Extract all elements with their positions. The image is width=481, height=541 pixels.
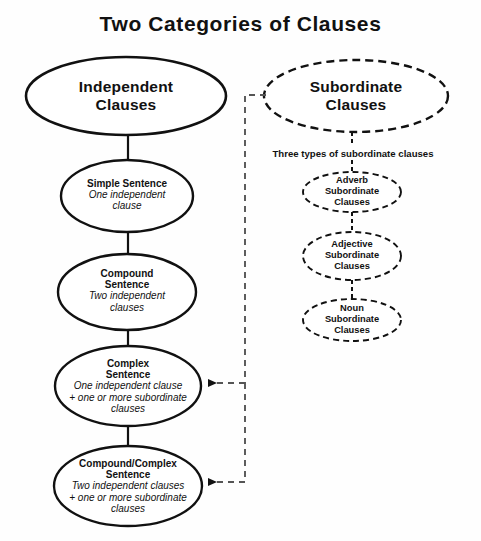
node-compound-complex-sentence[interactable] bbox=[54, 446, 202, 526]
node-complex-sentence[interactable] bbox=[55, 346, 201, 426]
caption-three-types: Three types of subordinate clauses bbox=[262, 148, 444, 159]
node-independent-clauses[interactable] bbox=[26, 57, 226, 135]
crosslink-trunk-upper bbox=[245, 95, 266, 383]
node-simple-sentence[interactable] bbox=[61, 160, 193, 232]
crosslink-to-compound-complex-sentence bbox=[208, 383, 245, 482]
diagram-canvas: Two Categories of Clauses Independent Cl… bbox=[0, 0, 481, 541]
node-adjective-subordinate-clauses[interactable] bbox=[303, 232, 401, 280]
page-title: Two Categories of Clauses bbox=[0, 12, 481, 36]
node-subordinate-clauses[interactable] bbox=[264, 60, 448, 132]
node-compound-sentence[interactable] bbox=[58, 254, 196, 330]
node-noun-subordinate-clauses[interactable] bbox=[303, 299, 401, 341]
node-adverb-subordinate-clauses[interactable] bbox=[303, 172, 401, 212]
diagram-graphics bbox=[0, 0, 481, 541]
